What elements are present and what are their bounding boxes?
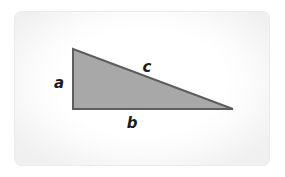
figure-card: a c b [14, 11, 270, 166]
triangle-diagram-svg: a c b [15, 12, 270, 166]
right-triangle-shape [73, 49, 233, 109]
side-label-a: a [54, 74, 64, 92]
figure-root: a c b [0, 0, 285, 177]
side-label-c: c [143, 58, 152, 76]
side-label-b: b [127, 114, 138, 132]
